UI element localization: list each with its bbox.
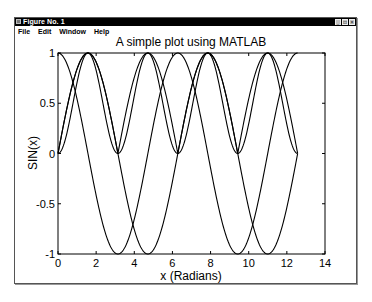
y-axis-label: SIN(x)	[26, 136, 40, 170]
curve-sin-squared	[58, 53, 298, 154]
x-tick-label: 12	[281, 257, 293, 269]
plot-canvas: A simple plot using MATLAB 02468101214 -…	[0, 0, 372, 302]
data-curves	[58, 53, 298, 254]
x-tick-label: 2	[93, 257, 99, 269]
y-tick-label: -0.5	[36, 198, 55, 210]
x-tick-label: 4	[131, 257, 137, 269]
y-tick-label: 1	[49, 47, 55, 59]
curve-abs-sin	[58, 53, 298, 154]
x-axis-label: x (Radians)	[160, 269, 221, 283]
y-tick-label: 0.5	[40, 97, 55, 109]
x-tick-label: 6	[169, 257, 175, 269]
y-tick-label: 0	[49, 148, 55, 160]
x-tick-label: 8	[208, 257, 214, 269]
x-tick-label: 0	[55, 257, 61, 269]
x-tick-label: 10	[243, 257, 255, 269]
chart-title: A simple plot using MATLAB	[116, 35, 267, 49]
x-tick-label: 14	[319, 257, 331, 269]
y-tick-label: -1	[45, 248, 55, 260]
axes-frame	[58, 53, 325, 254]
